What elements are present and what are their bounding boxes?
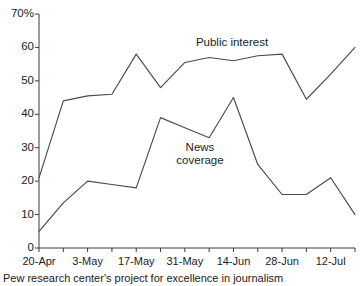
y-tick-label-70: 70% [0, 8, 34, 20]
x-tick-label-12-jul: 12-Jul [316, 256, 346, 267]
y-tick-label-10: 10 [0, 209, 34, 221]
x-tick-label-14-jun: 14-Jun [217, 256, 251, 267]
y-tick-label-20: 20 [0, 175, 34, 187]
y-tick-label-60: 60 [0, 41, 34, 53]
series-label-public-interest-text: Public interest [196, 36, 268, 48]
series-label-public-interest: Public interest [196, 36, 268, 49]
y-tick-label-40: 40 [0, 108, 34, 120]
source-note: Pew research center's project for excell… [3, 272, 283, 284]
y-tick-label-0: 0 [0, 242, 34, 254]
series-label-news-coverage: News coverage [176, 141, 223, 167]
x-tick-label-3-may: 3-May [72, 256, 103, 267]
y-tick-label-50: 50 [0, 75, 34, 87]
chart-axes [35, 14, 355, 252]
series-label-news-coverage-line2: coverage [176, 154, 223, 166]
x-tick-label-31-may: 31-May [167, 256, 204, 267]
y-tick-label-30: 30 [0, 142, 34, 154]
y-axis-tick-labels: 010203040506070% [0, 0, 34, 286]
x-tick-label-17-may: 17-May [118, 256, 155, 267]
x-tick-label-20-apr: 20-Apr [22, 256, 55, 267]
x-tick-label-28-jun: 28-Jun [265, 256, 299, 267]
series-label-news-coverage-line1: News [186, 141, 215, 153]
chart-figure: 010203040506070% 20-Apr3-May17-May31-May… [0, 0, 360, 286]
chart-series [39, 47, 355, 231]
